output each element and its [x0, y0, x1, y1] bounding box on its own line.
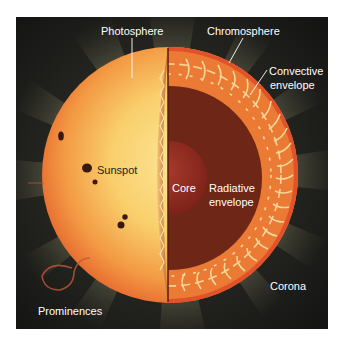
sunspot-3 — [93, 180, 98, 185]
label-convective-line2: envelope — [270, 79, 315, 91]
label-core: Core — [172, 182, 196, 194]
sunspot-main — [82, 164, 92, 173]
sunspot-4 — [122, 214, 127, 219]
label-chromosphere: Chromosphere — [207, 25, 280, 37]
label-radiative-line1: Radiative — [209, 182, 255, 194]
label-radiative-line2: envelope — [209, 196, 254, 208]
label-corona: Corona — [270, 280, 307, 292]
sunspot-1 — [58, 132, 64, 141]
sunspot-5 — [118, 222, 125, 229]
label-photosphere: Photosphere — [101, 25, 163, 37]
label-prominences: Prominences — [38, 305, 103, 317]
label-sunspot: Sunspot — [97, 164, 137, 176]
sun-structure-diagram: Photosphere Chromosphere Convective enve… — [0, 0, 343, 343]
label-convective-line1: Convective — [269, 65, 323, 77]
